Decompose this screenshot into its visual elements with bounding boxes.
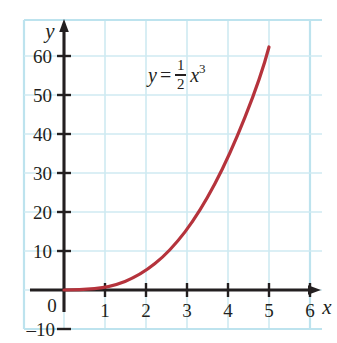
- chart-canvas: 60 50 40 30 20 10 –10 0 1 2 3 4 5 6 y x …: [0, 0, 337, 343]
- equation-fraction: 1 2: [175, 58, 186, 92]
- xtick-label-1: 1: [100, 300, 110, 321]
- y-axis-label: y: [43, 19, 55, 43]
- fraction-denominator: 2: [176, 77, 186, 92]
- ytick-label-60: 60: [33, 46, 52, 67]
- equation-variable: x: [190, 65, 199, 85]
- ytick-label-10: 10: [33, 241, 52, 262]
- x-axis-label: x: [321, 295, 332, 319]
- ytick-label-20: 20: [33, 202, 52, 223]
- xtick-label-3: 3: [182, 300, 192, 321]
- ytick-label-40: 40: [33, 124, 52, 145]
- ytick-label-neg10: –10: [26, 319, 56, 340]
- xtick-label-5: 5: [264, 300, 274, 321]
- equation-lhs: y: [148, 65, 157, 85]
- fraction-numerator: 1: [176, 58, 186, 73]
- equation-exponent: 3: [199, 62, 206, 75]
- xtick-label-4: 4: [223, 300, 233, 321]
- xtick-label-2: 2: [141, 300, 151, 321]
- ytick-label-50: 50: [33, 85, 52, 106]
- origin-label: 0: [47, 295, 57, 316]
- ytick-label-30: 30: [33, 163, 52, 184]
- function-graph: 60 50 40 30 20 10 –10 0 1 2 3 4 5 6 y x: [0, 0, 337, 343]
- xtick-label-6: 6: [305, 300, 315, 321]
- equation-annotation: y = 1 2 x 3: [148, 58, 206, 92]
- equation-equals-sign: =: [160, 65, 171, 85]
